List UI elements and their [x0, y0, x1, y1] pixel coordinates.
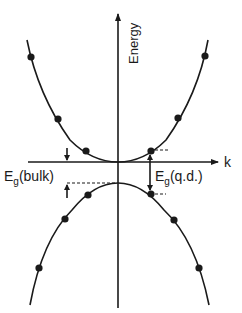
valence-band-curve — [30, 183, 209, 305]
vb-state-dot — [35, 264, 42, 271]
cb-state-dot — [147, 147, 154, 154]
vb-state-dot — [84, 191, 91, 198]
cb-state-dot — [82, 147, 89, 154]
vb-state-dot — [195, 264, 202, 271]
k-axis-label: k — [224, 154, 232, 170]
bulk-gap-label: Eg(bulk) — [4, 168, 54, 187]
cb-state-dot — [174, 114, 181, 121]
cb-state-dot — [54, 115, 61, 122]
vb-state-dot — [170, 216, 177, 223]
vb-state-dot — [147, 190, 154, 197]
band-structure-diagram: Energy k Eg(bulk) Eg(q.d. — [0, 0, 242, 313]
vb-state-dot — [61, 215, 68, 222]
cb-state-dot — [27, 53, 34, 60]
valence-band-states — [35, 190, 202, 271]
cb-state-dot — [201, 52, 208, 59]
qd-gap-label: Eg(q.d.) — [155, 168, 203, 187]
energy-axis-label: Energy — [126, 22, 141, 64]
